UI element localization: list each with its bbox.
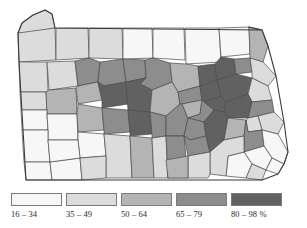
legend-item-0: 16 – 34 [11, 193, 62, 219]
county-tioga [153, 28, 185, 60]
county-jefferson [98, 82, 128, 108]
county-allegheny-s [48, 140, 80, 162]
legend-item-1: 35 – 49 [66, 193, 117, 219]
county-indiana [102, 108, 130, 134]
county-allegheny [47, 114, 78, 140]
county-butler [46, 88, 77, 114]
county-beaver [21, 110, 48, 130]
legend-swatch-1 [66, 193, 117, 206]
legend-label-4: 80 – 98 % [231, 209, 282, 219]
legend-label-1: 35 – 49 [66, 209, 117, 219]
legend-item-4: 80 – 98 % [231, 193, 282, 219]
county-adams [166, 156, 188, 178]
county-fulton [152, 136, 168, 178]
county-somerset [104, 134, 132, 178]
legend-item-3: 65 – 79 [176, 193, 227, 219]
county-fayette-e [80, 156, 106, 180]
legend-label-2: 50 – 64 [121, 209, 172, 219]
legend-swatch-0 [11, 193, 62, 206]
county-bradford [185, 28, 221, 64]
county-elk [98, 59, 126, 86]
county-washington [22, 130, 50, 162]
county-cambria [128, 110, 152, 136]
county-wayne-north [249, 27, 268, 62]
county-blair [150, 112, 166, 138]
choropleth-figure: 16 – 34 35 – 49 50 – 64 65 – 79 80 – 98 … [0, 0, 307, 228]
legend-swatch-2 [121, 193, 172, 206]
county-venango [47, 61, 78, 90]
county-polygons [18, 10, 288, 180]
county-bedford [130, 136, 154, 178]
county-potter [123, 28, 153, 59]
county-susquehanna [219, 27, 250, 57]
legend-label-3: 65 – 79 [176, 209, 227, 219]
county-armstrong [77, 104, 104, 132]
county-westmoreland [78, 132, 106, 158]
county-forest [75, 58, 100, 86]
map-svg [0, 0, 307, 190]
county-lawrence [20, 92, 47, 110]
county-york [188, 152, 210, 178]
county-crawford [18, 28, 56, 62]
county-clarion [76, 82, 102, 104]
county-mercer [19, 62, 48, 92]
legend-items: 16 – 34 35 – 49 50 – 64 65 – 79 80 – 98 … [11, 193, 282, 219]
county-warren [56, 28, 89, 60]
map-legend: 16 – 34 35 – 49 50 – 64 65 – 79 80 – 98 … [0, 193, 307, 226]
county-mckean [89, 28, 123, 59]
legend-label-0: 16 – 34 [11, 209, 62, 219]
county-lackawanna [234, 58, 252, 74]
county-greene [24, 162, 52, 180]
legend-swatch-3 [176, 193, 227, 206]
legend-item-2: 50 – 64 [121, 193, 172, 219]
legend-swatch-4 [231, 193, 282, 206]
pennsylvania-county-map [0, 0, 307, 190]
